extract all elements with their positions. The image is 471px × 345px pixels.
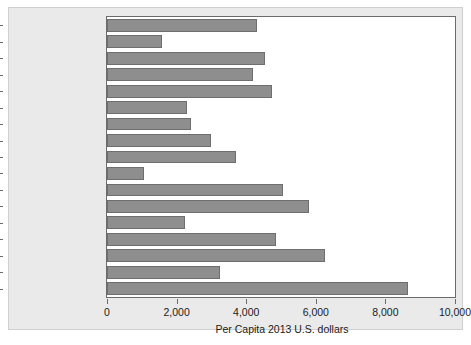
chart-figure: CanadaChileDenmarkFranceGermanyGreeceIsr…	[8, 7, 463, 330]
x-axis-tick	[246, 299, 247, 304]
bar-row	[107, 35, 455, 48]
bar-row	[107, 19, 455, 32]
y-axis-tick	[0, 58, 3, 59]
bar-row	[107, 282, 455, 295]
bar-row	[107, 200, 455, 213]
x-axis-tick-label: 2,000	[163, 306, 189, 318]
y-axis-tick	[0, 141, 3, 142]
bar-south-korea	[107, 216, 185, 229]
x-axis-tick-label: 10,000	[439, 306, 471, 318]
x-axis-tick	[107, 299, 108, 304]
y-axis-tick	[0, 256, 3, 257]
bar-row	[107, 249, 455, 262]
y-axis-tick	[0, 108, 3, 109]
bar-united-states	[107, 282, 408, 295]
bar-row	[107, 134, 455, 147]
plot-frame: CanadaChileDenmarkFranceGermanyGreeceIsr…	[106, 16, 456, 298]
bar-israel	[107, 118, 191, 131]
x-axis-tick	[385, 299, 386, 304]
bar-row	[107, 118, 455, 131]
x-axis-tick-label: 4,000	[233, 306, 259, 318]
y-axis-tick	[0, 173, 3, 174]
bar-norway	[107, 200, 309, 213]
bar-mexico	[107, 167, 144, 180]
bar-row	[107, 233, 455, 246]
x-axis-tick	[455, 299, 456, 304]
bar-row	[107, 216, 455, 229]
bar-chile	[107, 35, 162, 48]
y-axis-tick	[0, 157, 3, 158]
bar-united-kingdom	[107, 266, 220, 279]
x-axis-tick-label: 8,000	[372, 306, 398, 318]
bar-germany	[107, 85, 272, 98]
bar-row	[107, 85, 455, 98]
y-axis-tick	[0, 239, 3, 240]
bar-row	[107, 101, 455, 114]
bar-sweden	[107, 233, 276, 246]
y-axis-tick	[0, 190, 3, 191]
bar-row	[107, 68, 455, 81]
x-axis-tick-label: 0	[104, 306, 110, 318]
y-axis-tick	[0, 124, 3, 125]
bar-france	[107, 68, 253, 81]
x-axis-tick-label: 6,000	[303, 306, 329, 318]
bar-canada	[107, 19, 257, 32]
bar-row	[107, 167, 455, 180]
bar-switzerland	[107, 249, 325, 262]
y-axis-tick	[0, 272, 3, 273]
y-axis-tick	[0, 25, 3, 26]
bar-denmark	[107, 52, 265, 65]
bar-greece	[107, 101, 187, 114]
bar-italy	[107, 134, 211, 147]
x-axis-tick	[177, 299, 178, 304]
y-axis-tick	[0, 289, 3, 290]
y-axis-tick	[0, 206, 3, 207]
x-axis-tick	[316, 299, 317, 304]
bar-row	[107, 151, 455, 164]
x-axis-title: Per Capita 2013 U.S. dollars	[107, 323, 457, 335]
bar-row	[107, 184, 455, 197]
y-axis-tick	[0, 91, 3, 92]
bar-japan	[107, 151, 236, 164]
bar-row	[107, 266, 455, 279]
plot-area: CanadaChileDenmarkFranceGermanyGreeceIsr…	[107, 17, 455, 297]
bar-row	[107, 52, 455, 65]
y-axis-tick	[0, 75, 3, 76]
bar-netherlands	[107, 184, 283, 197]
y-axis-tick	[0, 42, 3, 43]
y-axis-tick	[0, 223, 3, 224]
